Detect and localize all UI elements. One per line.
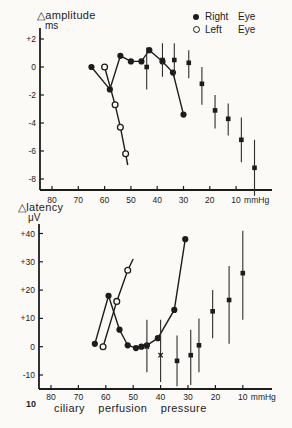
data-point [170,70,176,76]
plot-1: +40+30+20+100-108070605040302010mmHg [21,224,277,402]
data-point [239,138,244,143]
legend: Right Eye Left Eye [193,10,255,36]
x-tick-label: 50 [128,392,138,402]
legend-label: Eye [238,24,255,35]
series-line [91,50,183,114]
data-point [92,341,98,347]
x-unit-label: mmHg [244,195,269,205]
x-tick-label: 10 [238,392,248,402]
data-point [188,353,193,358]
x-tick-label: 50 [126,195,136,205]
y-tick-label: -8 [28,174,36,184]
data-point [117,53,123,59]
data-point [213,108,218,113]
x-tick-label: 40 [156,392,166,402]
data-point [172,58,177,63]
chart-canvas: +20-2-4-6-88070605040302010mmHg+40+30+20… [0,0,292,428]
data-point [125,342,131,348]
y-tick-label: -10 [23,370,36,380]
y-tick-label: +30 [21,257,36,267]
legend-label: Eye [238,11,255,22]
bottom-plot-unit: μV [28,213,40,223]
legend-item-right-eye: Right Eye [193,10,255,23]
data-point [123,151,129,157]
series-line [105,67,128,165]
data-point [117,124,123,130]
data-point [241,271,246,276]
y-tick-label: -4 [28,118,36,128]
data-point [186,61,191,66]
series-filled-square [145,231,245,387]
data-point [226,117,231,122]
data-point [197,343,202,348]
series-open-circle [102,64,129,165]
data-point [200,82,205,87]
x-tick-label: 40 [152,195,162,205]
x-unit-label: mmHg [251,392,276,402]
data-point [133,345,139,351]
page-number: 10 [26,400,36,409]
x-tick-label: 70 [74,195,84,205]
x-tick-label: 60 [101,392,111,402]
data-point [144,65,149,70]
legend-label: Left [205,24,238,35]
data-point [125,267,131,273]
legend-item-left-eye: Left Eye [193,23,255,36]
x-tick-label: 20 [211,392,221,402]
y-ticks: +20-2-4-6-8 [26,34,44,184]
figure-page: +20-2-4-6-88070605040302010mmHg+40+30+20… [0,0,292,428]
bottom-plot-title: △latency [18,202,63,213]
data-point [138,58,144,64]
x-tick-label: 70 [74,392,84,402]
data-point [252,166,257,171]
series-filled-circle [88,47,186,118]
data-point [88,64,94,70]
y-tick-label: 0 [31,62,36,72]
data-point [116,327,122,333]
series-filled-square [144,43,256,196]
x-tick-label: 30 [179,195,189,205]
x-tick-label: 20 [205,195,215,205]
axes [39,224,272,389]
data-point [114,299,120,305]
x-ticks: 8070605040302010 [46,385,248,402]
x-tick-label: 80 [46,392,56,402]
y-tick-label: +40 [21,229,36,239]
data-point [128,58,134,64]
filled-circle-icon [193,14,205,20]
x-tick-label: 30 [183,392,193,402]
top-plot-unit: ms [45,21,58,31]
legend-label: Right [205,11,238,22]
data-point [160,58,165,63]
y-tick-label: +2 [26,34,36,44]
y-tick-label: 0 [30,342,35,352]
open-circle-icon [193,26,205,33]
data-point [100,344,106,350]
plot-0: +20-2-4-6-88070605040302010mmHg [26,28,272,205]
y-tick-label: +10 [21,313,36,323]
data-point [175,359,180,364]
x-ticks: 8070605040302010 [47,186,241,205]
x-axis-caption: ciliary perfusion pressure [54,403,207,414]
data-point [105,293,111,299]
data-point [155,335,161,341]
data-point [227,298,232,303]
data-point [171,307,177,313]
y-tick-label: +20 [21,285,36,295]
x-tick-label: 60 [100,195,110,205]
data-point [112,102,118,108]
y-tick-label: -6 [28,146,36,156]
data-point [180,112,186,118]
series-open-circle [100,259,133,350]
x-tick-label: 10 [231,195,241,205]
data-point [102,64,108,70]
y-tick-label: -2 [28,90,36,100]
data-point [182,236,188,242]
data-point [138,344,144,350]
axes [40,28,272,190]
data-point [210,309,215,314]
